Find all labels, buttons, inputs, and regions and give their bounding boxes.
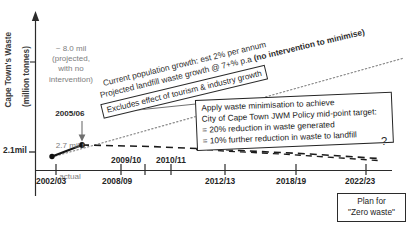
- note-actual-year: 2005/06: [41, 109, 99, 120]
- x-axis-tick-label-2002-03: 2002/03: [36, 176, 66, 186]
- y-axis-tick-label-2-1mil: 2.1mil: [3, 146, 27, 155]
- y-axis-title-line2: (million tonnes): [23, 2, 32, 152]
- zero-waste-line-1: Plan for: [340, 196, 403, 207]
- chart-text-layer: Cape Town's Waste (million tonnes) 2.1mi…: [0, 0, 418, 233]
- waste-projection-chart: Cape Town's Waste (million tonnes) 2.1mi…: [0, 0, 418, 233]
- x-axis-tick-label-2009-10: 2009/10: [111, 155, 141, 165]
- note-2005-06-actual: 2005/06 2.7 mil t actual: [41, 88, 99, 204]
- zero-waste-line-2: "Zero waste": [340, 207, 403, 218]
- uncertainty-question-mark: ?: [381, 136, 387, 148]
- note-actual-value: 2.7 mil t: [41, 141, 99, 152]
- x-axis-tick-label-2010-11: 2010/11: [156, 155, 186, 165]
- annotation-landfill-growth-emphasis: (no intervention to minimise): [253, 27, 366, 63]
- x-axis-tick-label-2018-19: 2018/19: [276, 176, 306, 186]
- note-projected-8-0-mil: ~ 8.0 mil (projected, with no interventi…: [40, 44, 102, 85]
- annotation-box-zero-waste: Plan for "Zero waste": [337, 193, 406, 222]
- y-axis-title-line1: Cape Town's Waste: [4, 32, 13, 108]
- x-axis-tick-label-2008-09: 2008/09: [102, 176, 132, 186]
- annotation-box-minimisation-target: Apply waste minimisation to achieve City…: [195, 92, 394, 151]
- x-axis-tick-label-2022-23: 2022/23: [345, 176, 375, 186]
- x-axis-tick-label-2012-13: 2012/13: [205, 176, 235, 186]
- annotation-landfill-waste-growth: Projected landfill waste growth @ 7+% p.…: [99, 27, 366, 100]
